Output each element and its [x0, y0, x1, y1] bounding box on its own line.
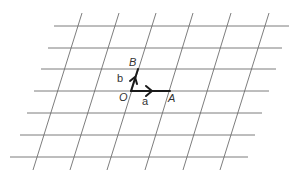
- point-label-b-capital: B: [129, 56, 136, 68]
- point-label-a: A: [167, 92, 175, 104]
- slanted-grid-line: [70, 13, 119, 170]
- vector-a: [131, 86, 170, 96]
- vector-b: [130, 69, 138, 91]
- vector-label-b: b: [117, 72, 123, 84]
- slanted-grid-line: [220, 13, 269, 170]
- vector-label-a: a: [142, 95, 149, 107]
- slanted-grid-line: [183, 13, 231, 170]
- point-label-o: O: [119, 91, 128, 103]
- lattice-diagram: B b O a A: [0, 0, 296, 182]
- slanted-grid-line: [33, 13, 82, 170]
